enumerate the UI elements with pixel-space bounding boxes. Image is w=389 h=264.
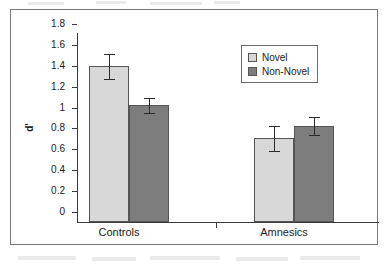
legend-swatch-icon bbox=[248, 67, 257, 76]
error-bar-cap-upper bbox=[309, 117, 320, 118]
y-axis-tick bbox=[72, 87, 77, 88]
y-axis-tick-label: 1.4 bbox=[19, 61, 65, 71]
y-axis-tick-label: 1.2 bbox=[19, 82, 65, 92]
y-axis-tick bbox=[72, 191, 77, 192]
scan-artifact bbox=[28, 2, 64, 5]
y-axis-tick-label: 0.4 bbox=[19, 165, 65, 175]
scan-artifact bbox=[300, 256, 360, 260]
x-axis-label-controls: Controls bbox=[74, 226, 164, 238]
legend-item: Non-Novel bbox=[248, 64, 309, 78]
scan-artifact bbox=[236, 257, 288, 261]
y-axis-tick-label: 0.2 bbox=[19, 186, 65, 196]
scan-artifact bbox=[96, 1, 126, 4]
x-axis-mid-tick bbox=[216, 223, 217, 228]
error-bar-line bbox=[274, 126, 275, 151]
y-axis-tick-label: 1.6 bbox=[19, 40, 65, 50]
legend-label: Novel bbox=[262, 52, 288, 63]
error-bar-cap-upper bbox=[269, 126, 280, 127]
legend-swatch-icon bbox=[248, 53, 257, 62]
error-bar-cap-upper bbox=[144, 98, 155, 99]
bar-controls-novel bbox=[89, 66, 129, 222]
x-axis-label-amnesics: Amnesics bbox=[239, 226, 329, 238]
scan-artifact bbox=[150, 2, 202, 5]
bar-amnesics-non-novel bbox=[294, 126, 334, 222]
y-axis-tick bbox=[72, 170, 77, 171]
scan-artifact bbox=[150, 256, 220, 260]
legend-label: Non-Novel bbox=[262, 66, 309, 77]
y-axis-tick bbox=[72, 24, 77, 25]
scan-artifact bbox=[92, 257, 136, 261]
error-bar-cap-upper bbox=[104, 54, 115, 55]
legend-item: Novel bbox=[248, 50, 309, 64]
chart-figure: d' 1.81.61.41.210.80.60.40.20 ControlsAm… bbox=[0, 0, 389, 264]
error-bar-line bbox=[149, 98, 150, 114]
error-bar-line bbox=[314, 117, 315, 136]
y-axis-tick bbox=[72, 45, 77, 46]
bar-controls-non-novel bbox=[129, 105, 169, 222]
y-axis-tick bbox=[72, 128, 77, 129]
scan-artifact bbox=[214, 1, 240, 4]
scan-artifact bbox=[18, 256, 76, 260]
figure-border: d' 1.81.61.41.210.80.60.40.20 ControlsAm… bbox=[10, 9, 378, 245]
y-axis-tick-label: 1 bbox=[19, 103, 65, 113]
y-axis-tick bbox=[72, 66, 77, 67]
error-bar-cap-lower bbox=[144, 113, 155, 114]
chart-legend: NovelNon-Novel bbox=[241, 45, 318, 83]
y-axis-tick-label: 1.8 bbox=[19, 19, 65, 29]
error-bar-cap-lower bbox=[104, 79, 115, 80]
plot-area bbox=[78, 34, 379, 222]
y-axis-tick-label: 0.8 bbox=[19, 123, 65, 133]
error-bar-cap-lower bbox=[269, 151, 280, 152]
x-axis-line bbox=[77, 222, 379, 223]
y-axis-tick bbox=[72, 149, 77, 150]
y-axis-tick bbox=[72, 108, 77, 109]
y-axis-tick bbox=[72, 212, 77, 213]
error-bar-cap-lower bbox=[309, 135, 320, 136]
y-axis-tick-label: 0 bbox=[19, 207, 65, 217]
y-axis-tick-label: 0.6 bbox=[19, 144, 65, 154]
error-bar-line bbox=[109, 54, 110, 79]
